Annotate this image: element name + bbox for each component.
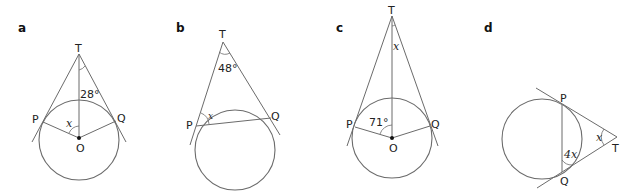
point-t-a: T (74, 42, 82, 55)
angle-given-b: 48° (218, 62, 238, 75)
angle-given-c: 71° (369, 116, 389, 129)
diagram-label-c: c (336, 21, 343, 35)
diagram-label-d: d (484, 21, 493, 35)
radius-op-a (43, 122, 79, 138)
tangent-tp-b (190, 42, 223, 145)
diagram-b: b T P Q 48° x (176, 21, 280, 190)
angle-unknown-a: x (66, 117, 73, 130)
center-dot-a (77, 136, 81, 140)
point-q-b: Q (271, 110, 280, 123)
tangent-diagrams: a T P Q O 28° x b T P Q 48° x c (0, 0, 624, 191)
point-t-b: T (218, 28, 226, 41)
angle-unknown-d: x (596, 131, 603, 144)
angle-given-a: 28° (80, 88, 100, 101)
point-q-d: Q (560, 175, 569, 188)
point-o-a: O (76, 142, 85, 155)
point-q-a: Q (117, 112, 126, 125)
point-p-b: P (186, 119, 193, 132)
tangent-tq-d (537, 137, 617, 188)
diagram-label-b: b (176, 21, 185, 35)
angle-arc-48-b (219, 52, 230, 54)
angle-arc-28-a (79, 66, 85, 70)
point-o-c: O (389, 142, 398, 155)
diagram-a: a T P Q O 28° x (18, 21, 126, 180)
tangent-tp-d (536, 88, 617, 137)
diagram-label-a: a (18, 21, 26, 35)
angle-given-d: 4x (563, 148, 578, 161)
angle-unknown-b: x (208, 111, 213, 121)
radius-oq-c (392, 126, 430, 138)
diagram-c: c T P Q O 71° x (336, 4, 440, 178)
center-dot-c (390, 136, 394, 140)
point-t-c: T (387, 4, 395, 17)
point-p-c: P (346, 118, 353, 131)
angle-unknown-c: x (393, 40, 400, 53)
point-q-c: Q (431, 118, 440, 131)
diagram-d: d P Q T 4x x (484, 21, 619, 188)
point-p-a: P (32, 113, 39, 126)
point-p-d: P (560, 92, 567, 105)
point-t-d: T (611, 142, 619, 155)
radius-oq-a (79, 121, 116, 138)
